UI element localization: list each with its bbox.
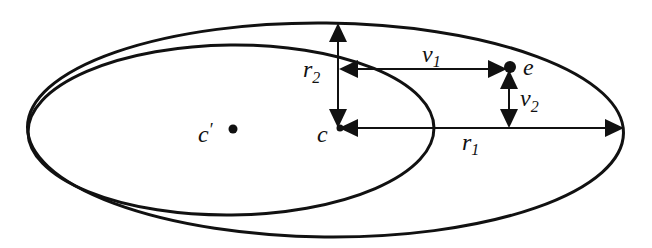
- label-v2: v2: [520, 85, 539, 115]
- point-c: [337, 125, 344, 132]
- label-e: e: [523, 54, 534, 80]
- label-r2: r2: [303, 56, 320, 86]
- label-c-prime: c′: [198, 120, 214, 147]
- label-c: c: [317, 121, 328, 147]
- ellipse-diagram: c′ c e r2 v1 v2 r1: [0, 0, 652, 248]
- point-e: [504, 61, 516, 73]
- v2-arrowhead-bottom: [500, 109, 518, 128]
- label-r1: r1: [462, 129, 479, 158]
- v1-arrowhead-left: [339, 60, 358, 78]
- v1-arrowhead-right: [488, 60, 507, 78]
- r2-arrowhead-top: [329, 23, 347, 42]
- point-c-prime: [229, 125, 238, 134]
- label-v1: v1: [422, 41, 441, 70]
